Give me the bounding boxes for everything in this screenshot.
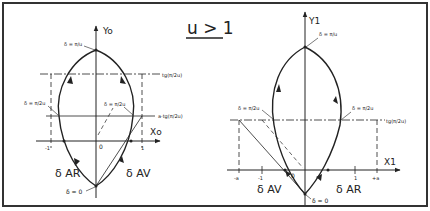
right-dashed-diagonal bbox=[262, 120, 303, 168]
left-top-leader bbox=[84, 46, 95, 50]
left-bottom-point-label: δ = 0 bbox=[66, 188, 83, 195]
right-right-leader bbox=[341, 112, 351, 120]
left-arrow-lower-left bbox=[74, 158, 80, 166]
page-title: u > 1 bbox=[187, 18, 234, 38]
right-x-axis-label: X1 bbox=[384, 157, 396, 167]
right-curve bbox=[272, 47, 341, 194]
left-x-axis-label: Xo bbox=[150, 127, 162, 137]
left-bottom-leader bbox=[86, 187, 95, 191]
left-point-x-right bbox=[130, 140, 133, 143]
left-atg-label: a·tg(π/2u) bbox=[158, 113, 183, 120]
left-left-mid-label: δ = π/2u bbox=[24, 100, 45, 106]
left-tick-plus-one: 1 bbox=[141, 145, 144, 151]
left-diagram: Yo Xo 0 -1 1 tg(π/2u) a·tg(π/2u) δ = π/u bbox=[24, 26, 183, 198]
right-tick-minus-one: -1 bbox=[258, 175, 263, 181]
left-top-point-label: δ = π/u bbox=[64, 41, 82, 47]
right-top-point-label: δ = π/u bbox=[319, 31, 337, 37]
right-tick-plus-a: +a bbox=[372, 175, 379, 181]
right-left-leader bbox=[262, 110, 273, 119]
diagram-canvas: u > 1 Yo Xo 0 -1 1 tg(π/2u) a·tg(π/2u) bbox=[0, 0, 430, 211]
left-right-mid-label: δ = π/2u bbox=[104, 101, 125, 107]
right-bottom-leader bbox=[306, 195, 311, 199]
right-bottom-point-label: δ = 0 bbox=[312, 197, 329, 204]
left-point-x-left bbox=[63, 140, 66, 143]
right-branch-label-av: δ AV bbox=[257, 183, 282, 196]
left-tg-label: tg(π/2u) bbox=[162, 72, 182, 79]
right-tick-plus-one: 1 bbox=[354, 175, 357, 181]
right-tick-minus-a: -a bbox=[234, 175, 239, 181]
right-y-axis-label: Y1 bbox=[308, 16, 320, 26]
left-tick-minus-one: -1 bbox=[45, 145, 50, 151]
right-arrow-upper-left bbox=[276, 84, 281, 92]
left-left-leader bbox=[48, 106, 58, 115]
left-origin-label: 0 bbox=[99, 143, 103, 150]
title-group: u > 1 bbox=[186, 18, 234, 38]
left-y-axis-label: Yo bbox=[102, 26, 113, 36]
right-arrow-upper-right bbox=[333, 96, 338, 104]
right-top-leader bbox=[306, 38, 318, 47]
right-tg-label: tg(π/2u) bbox=[386, 118, 406, 125]
left-right-leader bbox=[124, 107, 133, 115]
right-diagram: Y1 X1 0 -a -1 1 +a tg(π/2u) δ = π/u bbox=[227, 12, 406, 205]
right-right-mid-label: δ = π/2u bbox=[352, 105, 373, 111]
left-arrow-upper-left bbox=[67, 76, 73, 84]
left-branch-label-ar: δ AR bbox=[55, 167, 81, 180]
left-branch-label-av: δ AV bbox=[126, 167, 151, 180]
right-left-mid-label: δ = π/2u bbox=[238, 105, 259, 111]
left-dashed-diagonal bbox=[98, 108, 113, 135]
right-point-x-right bbox=[327, 169, 330, 172]
right-branch-label-ar: δ AR bbox=[336, 183, 362, 196]
